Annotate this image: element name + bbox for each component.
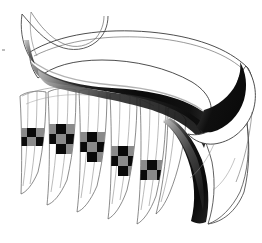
ink-speck xyxy=(2,49,5,51)
artwork-drawing xyxy=(0,0,262,243)
checkerboard-band xyxy=(18,128,45,146)
artwork-canvas: Abstract Ribbon Scroll xyxy=(0,0,262,243)
